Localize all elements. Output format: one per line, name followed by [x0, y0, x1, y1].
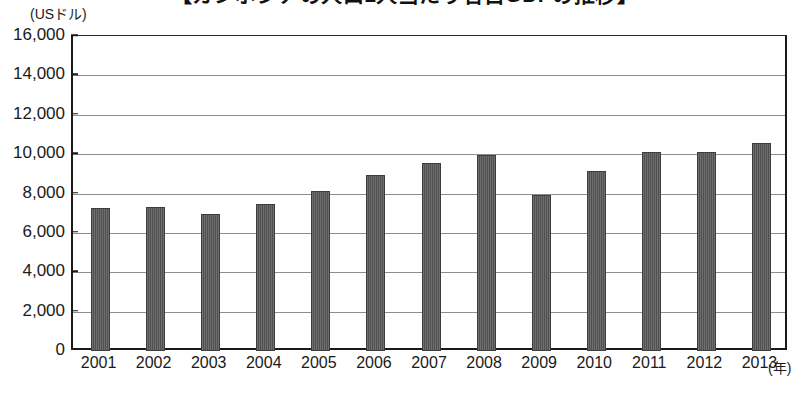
y-axis-tick-label: 10,000	[0, 143, 65, 163]
bar	[256, 204, 275, 351]
bar	[587, 171, 606, 351]
bar	[697, 152, 716, 351]
y-axis-unit-label: (USドル)	[30, 3, 87, 23]
y-axis-tick-mark	[71, 152, 78, 154]
bar	[752, 143, 771, 351]
bar	[201, 214, 220, 351]
gridline	[73, 154, 785, 155]
y-axis-tick-label: 2,000	[0, 301, 65, 321]
plot-area	[71, 35, 787, 350]
bar	[91, 208, 110, 351]
y-axis-tick-label: 8,000	[0, 183, 65, 203]
y-axis-tick-mark	[71, 34, 78, 36]
bar	[311, 191, 330, 351]
y-axis-tick-mark	[71, 74, 78, 76]
y-axis-tick-mark	[71, 231, 78, 233]
bar	[146, 207, 165, 351]
chart-title: 【カンボジアの人口1人当たり名目GDPの推移】	[0, 0, 809, 7]
bar	[366, 175, 385, 351]
gridline	[73, 115, 785, 116]
bar	[532, 195, 551, 351]
bar	[642, 152, 661, 351]
y-axis-tick-label: 4,000	[0, 261, 65, 281]
bar	[422, 163, 441, 351]
y-axis-tick-mark	[71, 192, 78, 194]
y-axis-tick-label: 14,000	[0, 64, 65, 84]
y-axis-tick-mark	[71, 310, 78, 312]
x-axis-unit-label: (年)	[768, 357, 791, 377]
bar	[477, 155, 496, 351]
y-axis-tick-label: 0	[0, 340, 65, 360]
y-axis-tick-label: 16,000	[0, 25, 65, 45]
y-axis-tick-mark	[71, 113, 78, 115]
y-axis-tick-label: 6,000	[0, 222, 65, 242]
y-axis-tick-label: 12,000	[0, 104, 65, 124]
y-axis-tick-mark	[71, 271, 78, 273]
bar-chart-figure: 【カンボジアの人口1人当たり名目GDPの推移】 (USドル) 02,0004,0…	[0, 0, 809, 394]
gridline	[73, 75, 785, 76]
